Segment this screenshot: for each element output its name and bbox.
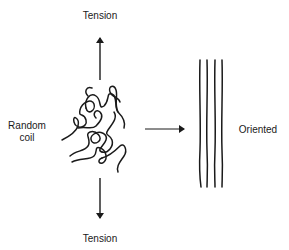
tension-bottom-label: Tension xyxy=(80,233,120,244)
tension-top-label: Tension xyxy=(80,10,120,21)
oriented-chains-icon xyxy=(200,60,223,187)
random-coil-label-line2: coil xyxy=(8,132,46,143)
random-coil-label-line1: Random xyxy=(8,120,46,131)
random-coil-icon xyxy=(62,86,126,172)
oriented-label: Oriented xyxy=(236,124,280,135)
